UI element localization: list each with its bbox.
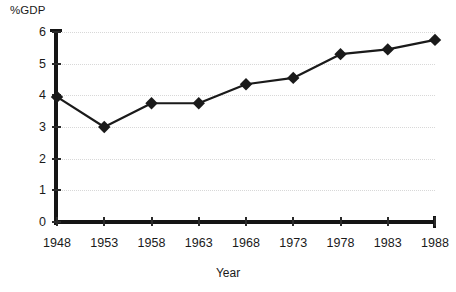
data-series-line xyxy=(0,0,456,292)
data-point-marker xyxy=(145,97,157,109)
data-point-marker xyxy=(334,48,346,60)
chart-container: %GDP 0123456 194819531958196319681973197… xyxy=(0,0,456,292)
data-point-marker xyxy=(429,34,441,46)
data-point-marker xyxy=(51,91,63,103)
data-point-marker xyxy=(98,121,110,133)
data-point-marker xyxy=(240,78,252,90)
data-point-marker xyxy=(287,72,299,84)
x-axis-title: Year xyxy=(0,266,456,280)
data-point-marker xyxy=(193,97,205,109)
data-point-marker xyxy=(382,43,394,55)
